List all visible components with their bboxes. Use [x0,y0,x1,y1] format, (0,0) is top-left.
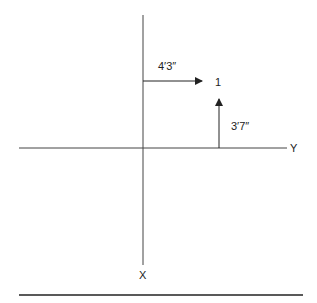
point-label: 1 [215,77,221,88]
x-axis-label: X [139,270,146,281]
offset-label-4-3: 4′3″ [158,61,176,72]
diagram-canvas [0,0,317,303]
offset-label-3-7: 3′7″ [231,121,249,132]
y-axis-label: Y [290,143,297,154]
